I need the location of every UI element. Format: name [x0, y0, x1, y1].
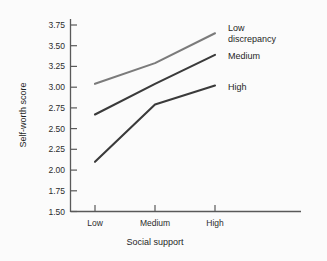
y-tick-label-3-75: 3.75: [48, 20, 65, 30]
y-tick-label-3-50: 3.50: [48, 41, 65, 51]
x-tick-marks: [95, 205, 215, 212]
x-axis-title: Social support: [126, 237, 184, 247]
series-label-low-discrepancy-line2: discrepancy: [228, 34, 277, 44]
series-line-high: [95, 86, 215, 162]
y-tick-label-3-25: 3.25: [48, 61, 65, 71]
y-tick-label-1-75: 1.75: [48, 186, 65, 196]
chart-canvas: 3.75 3.50 3.25 3.00 2.75 2.50 2.25 2.00 …: [0, 0, 327, 261]
y-tick-label-2-00: 2.00: [48, 165, 65, 175]
y-tick-label-2-75: 2.75: [48, 103, 65, 113]
y-axis-title: Self-worth score: [18, 82, 28, 147]
series-line-low-discrepancy: [95, 33, 215, 84]
series-label-medium: Medium: [228, 51, 260, 61]
y-tick-label-2-50: 2.50: [48, 124, 65, 134]
series-label-low-discrepancy-line1: Low: [228, 23, 245, 33]
x-tick-label-low: Low: [87, 218, 103, 228]
y-tick-label-3-00: 3.00: [48, 82, 65, 92]
line-chart: 3.75 3.50 3.25 3.00 2.75 2.50 2.25 2.00 …: [0, 0, 327, 261]
y-tick-marks: [71, 25, 78, 212]
x-tick-label-medium: Medium: [140, 218, 170, 228]
y-tick-label-2-25: 2.25: [48, 144, 65, 154]
series-label-high: High: [228, 82, 247, 92]
y-tick-label-1-50: 1.50: [48, 207, 65, 217]
x-tick-label-high: High: [206, 218, 224, 228]
